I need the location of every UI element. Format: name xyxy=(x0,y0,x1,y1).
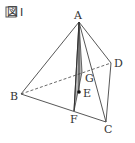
label-E: E xyxy=(83,87,91,100)
label-B: B xyxy=(10,90,18,103)
edge-BC xyxy=(21,94,106,122)
pyramid-diagram: 図 I A B C D E F G xyxy=(0,0,135,143)
label-A: A xyxy=(73,9,83,22)
label-D: D xyxy=(114,57,123,70)
label-C: C xyxy=(104,123,112,136)
edge-AB xyxy=(21,22,79,94)
figure-title: 図 I xyxy=(6,6,23,19)
edge-AD xyxy=(79,22,111,63)
title-numeral: I xyxy=(20,6,23,19)
label-F: F xyxy=(70,113,78,126)
edge-CD xyxy=(106,63,111,122)
title-kanji: 図 xyxy=(7,6,18,19)
label-G: G xyxy=(85,72,94,85)
point-E-dot xyxy=(77,90,81,94)
